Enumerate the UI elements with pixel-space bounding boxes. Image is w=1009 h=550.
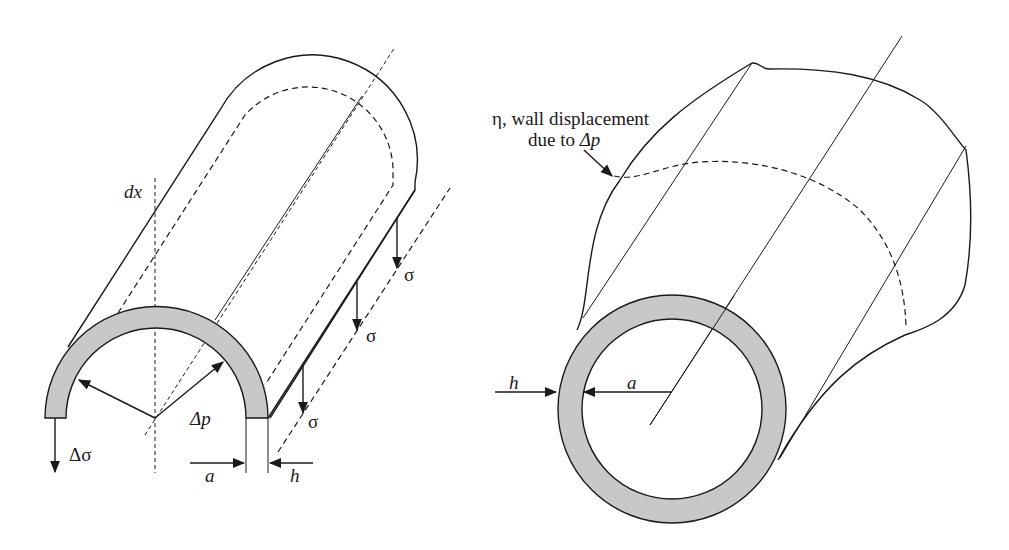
- half-tube-right-edge: [268, 190, 415, 418]
- generator-line-right: [780, 146, 966, 458]
- pressure-arrow-right: [155, 362, 223, 418]
- generator-line-left: [583, 63, 752, 318]
- sigma-label-2: σ: [366, 325, 376, 346]
- pressure-arrow-left: [79, 380, 155, 418]
- delta-p-label: Δp: [189, 408, 211, 429]
- a-label-right: a: [627, 372, 637, 393]
- a-label-left: a: [205, 465, 215, 486]
- h-label-right: h: [509, 372, 519, 393]
- displacement-annotation-line1: η, wall displacement: [492, 108, 650, 129]
- inner-generator-line: [215, 96, 362, 320]
- left-half-tube-diagram: dx Δp Δσ σ σ σ a h: [45, 47, 450, 486]
- delta-sigma-label: Δσ: [69, 444, 91, 465]
- sigma-label-3: σ: [308, 411, 318, 432]
- tube-ring-wall-section: [558, 295, 786, 523]
- sigma-rail-dashed: [278, 188, 450, 452]
- right-bulging-tube-diagram: η, wall displacement due to Δp h a: [492, 36, 971, 523]
- displacement-pointer-arrow: [584, 150, 612, 176]
- tube-wall-diagram: dx Δp Δσ σ σ σ a h η, wall displacement …: [0, 0, 1009, 550]
- h-label-left: h: [290, 465, 300, 486]
- sigma-label-1: σ: [404, 264, 414, 285]
- displacement-annotation-line2: due to Δp: [528, 129, 600, 150]
- half-tube-inner-dashed-outline: [118, 87, 393, 385]
- half-tube-wall-section: [45, 307, 268, 418]
- dx-label: dx: [124, 181, 143, 202]
